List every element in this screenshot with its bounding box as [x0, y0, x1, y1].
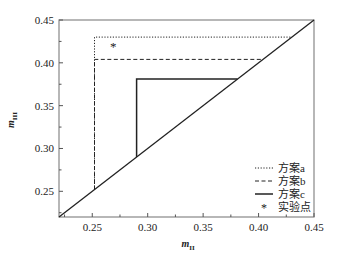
y-tick-label: 0.25 [35, 185, 55, 197]
legend-label: 方案c [278, 187, 305, 200]
x-tick-label: 0.25 [83, 221, 103, 233]
x-tick-label: 0.45 [304, 221, 324, 233]
x-axis-label: mII [181, 238, 195, 252]
plot-area: * [59, 20, 314, 217]
legend-item: 方案a [255, 161, 305, 174]
x-tick-label: 0.35 [194, 221, 214, 233]
y-tick-label: 0.30 [35, 142, 55, 154]
diagonal-line [59, 20, 314, 217]
x-tick-label: 0.40 [249, 221, 269, 233]
legend-label: 方案b [278, 174, 306, 187]
legend-label: 方案a [278, 161, 305, 174]
legend-item: *实验点 [261, 200, 311, 215]
legend-label: 实验点 [278, 200, 311, 213]
y-tick-label: 0.45 [35, 14, 55, 26]
x-axis: 0.250.300.350.400.45 [65, 213, 325, 233]
x-tick-label: 0.30 [138, 221, 158, 233]
y-axis-label: mIII [5, 112, 19, 128]
chart: * 0.250.300.350.400.45 0.250.300.350.400… [0, 0, 337, 266]
legend: 方案a方案b方案c*实验点 [255, 161, 311, 215]
legend-marker-icon: * [261, 201, 267, 215]
experiment-point-marker: * [110, 39, 117, 54]
legend-item: 方案b [255, 174, 306, 187]
y-tick-label: 0.35 [35, 100, 55, 112]
legend-item: 方案c [255, 187, 305, 200]
y-tick-label: 0.40 [35, 57, 55, 69]
